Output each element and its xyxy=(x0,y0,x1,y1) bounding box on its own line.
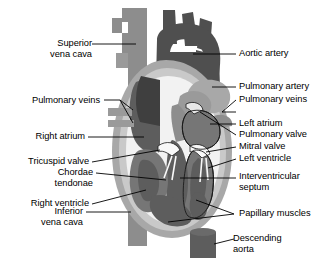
label-pulmonary-valve: Pulmonary valve xyxy=(239,129,332,140)
label-papillary-muscles: Papillary muscles xyxy=(239,208,332,219)
label-aortic-artery: Aortic artery xyxy=(239,48,331,59)
label-superior-vena-cava: Superior vena cava xyxy=(0,38,92,61)
label-descending-aorta: Descending aorta xyxy=(233,233,328,256)
label-pulmonary-veins-left: Pulmonary veins xyxy=(0,95,100,106)
label-interventricular-septum: Interventricular septum xyxy=(239,171,332,194)
label-pulmonary-artery: Pulmonary artery xyxy=(239,81,332,92)
label-left-ventricle: Left ventricle xyxy=(239,153,329,164)
label-right-atrium: Right atrium xyxy=(0,131,85,142)
label-tricuspid-valve: Tricuspid valve xyxy=(0,156,89,167)
leader-descending-aorta xyxy=(214,239,234,244)
heart-anatomy-figure: Superior vena cava Pulmonary veins Right… xyxy=(0,0,332,265)
label-pulmonary-veins-right: Pulmonary veins xyxy=(239,94,332,105)
label-left-atrium: Left atrium xyxy=(239,118,329,129)
label-chordae-tendonae: Chordae tendonae xyxy=(0,167,93,190)
label-inferior-vena-cava: Inferior vena cava xyxy=(0,206,83,229)
descending-aorta-shape xyxy=(190,228,216,258)
label-mitral-valve: Mitral valve xyxy=(239,141,329,152)
